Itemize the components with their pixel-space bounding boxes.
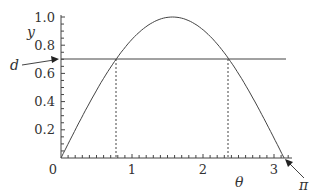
y-tick-labels: 0.2 0.4 0.6 0.8 1.0 (34, 10, 55, 137)
pi-label: π (298, 177, 309, 193)
y-tick-label: 0.4 (34, 94, 55, 109)
y-tick-label: 0.6 (34, 66, 55, 81)
axes (61, 15, 292, 158)
x-tick-label: 3 (270, 162, 278, 177)
sine-chart: 0.2 0.4 0.6 0.8 1.0 0 1 2 3 y θ d π (0, 0, 323, 196)
x-tick-label: 1 (128, 162, 136, 177)
pi-arrow (285, 159, 304, 178)
x-ticks (68, 154, 288, 158)
x-axis-label: θ (235, 174, 244, 190)
d-arrow (22, 56, 59, 65)
arrowhead-icon (51, 56, 59, 63)
y-axis-label: y (26, 24, 36, 40)
sine-curve (61, 17, 284, 158)
d-label: d (10, 57, 19, 73)
y-tick-label: 1.0 (34, 10, 55, 25)
x-tick-labels: 0 1 2 3 (49, 162, 278, 177)
y-tick-label: 0.8 (34, 38, 55, 53)
y-tick-label: 0.2 (34, 122, 55, 137)
origin-label: 0 (49, 162, 57, 177)
x-tick-label: 2 (199, 162, 207, 177)
y-ticks (61, 17, 65, 151)
